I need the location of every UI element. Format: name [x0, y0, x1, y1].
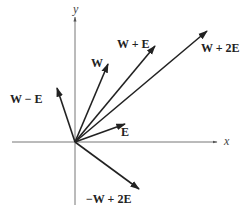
labels: W − EWW + EW + 2EE−W + 2E: [10, 37, 240, 206]
vector-w-e: [57, 88, 75, 142]
vector-label-w-2e: −W + 2E: [86, 192, 131, 206]
vector-diagram: xy W − EWW + EW + 2EE−W + 2E: [0, 0, 250, 214]
vector-label-w-e: W − E: [10, 92, 43, 106]
y-axis-label: y: [72, 2, 79, 16]
vector-label-e: E: [121, 125, 129, 139]
vector-label-w-2e: W + 2E: [201, 41, 240, 55]
vector-label-w-e: W + E: [117, 37, 150, 51]
vector-label-w: W: [91, 56, 103, 70]
vectors: [57, 31, 207, 189]
vector-w: [75, 64, 108, 142]
x-axis-label: x: [223, 134, 230, 148]
vector-w-2e: [75, 142, 139, 189]
